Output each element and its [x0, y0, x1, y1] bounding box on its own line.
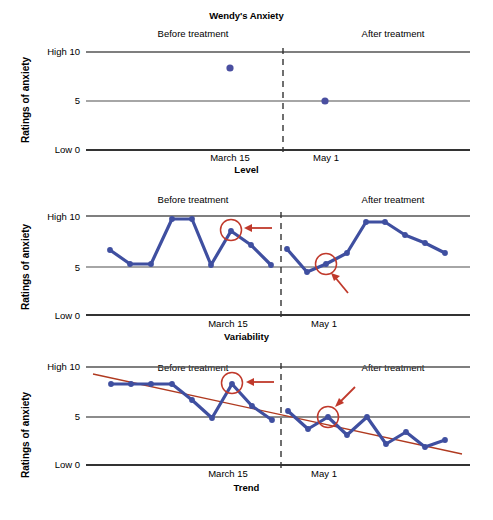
phase-label-after: After treatment: [318, 28, 468, 39]
x-tick-may-1: May 1: [293, 318, 355, 329]
panel-level: Wendy's Anxiety Before treatment After t…: [0, 0, 493, 175]
figure-title: Wendy's Anxiety: [0, 10, 493, 21]
panel-trend: Before treatment After treatment Ratings…: [0, 338, 493, 520]
phase-label-after: After treatment: [318, 362, 468, 373]
phase-label-before: Before treatment: [108, 194, 278, 205]
annotation-arrow-after: [331, 273, 348, 293]
data-point: [226, 64, 233, 71]
data-point-group: [108, 381, 448, 450]
x-tick-march-15: March 15: [188, 468, 268, 479]
y-tick-low-0: Low 0: [18, 310, 80, 321]
x-tick-may-1: May 1: [293, 468, 355, 479]
y-tick-high-10: High 10: [18, 361, 80, 372]
series-line-before: [110, 219, 271, 265]
trendline: [93, 374, 462, 454]
data-point-group: [107, 216, 448, 275]
annotation-circle-after: [316, 254, 337, 275]
x-tick-may-1: May 1: [295, 152, 357, 163]
annotation-circle-before: [221, 220, 242, 241]
phase-label-after: After treatment: [318, 194, 468, 205]
data-point: [321, 97, 328, 104]
phase-label-before: Before treatment: [108, 362, 278, 373]
y-tick-5: 5: [18, 411, 80, 422]
panel-variability: Before treatment After treatment Ratings…: [0, 168, 493, 346]
y-tick-low-0: Low 0: [18, 459, 80, 470]
y-tick-high-10: High 10: [18, 46, 80, 57]
panel-caption-trend: Trend: [0, 482, 493, 493]
y-tick-5: 5: [18, 95, 80, 106]
series-line-before: [111, 384, 272, 420]
x-tick-march-15: March 15: [188, 318, 268, 329]
series-line-after: [287, 222, 445, 272]
annotation-arrow-before: [244, 224, 272, 232]
x-tick-march-15: March 15: [190, 152, 270, 163]
annotation-arrow-after: [335, 387, 355, 407]
annotation-circle-after: [318, 407, 339, 428]
phase-label-before: Before treatment: [108, 28, 278, 39]
annotation-circle-before: [222, 373, 243, 394]
y-tick-5: 5: [18, 262, 80, 273]
figure-root: Wendy's Anxiety Before treatment After t…: [0, 0, 493, 520]
series-line-after: [288, 411, 445, 447]
y-tick-low-0: Low 0: [18, 144, 80, 155]
annotation-arrow-before: [246, 378, 274, 386]
y-tick-high-10: High 10: [18, 211, 80, 222]
